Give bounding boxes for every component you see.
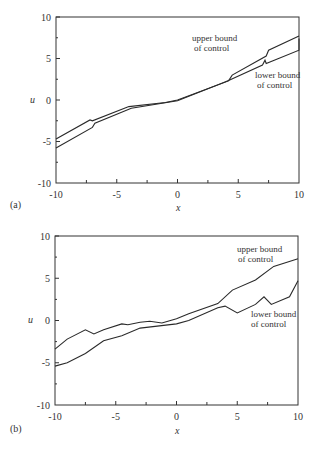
y-tick-label: 0 <box>45 315 50 326</box>
x-tick-label: -10 <box>49 189 62 200</box>
x-ticks-b <box>85 401 267 405</box>
x-tick-label: 5 <box>235 411 240 422</box>
y-tick-label: 10 <box>41 12 51 23</box>
annotation-upper-bound-a-line2: of control <box>194 43 230 53</box>
x-axis-label-b: x <box>174 425 180 436</box>
annotation-lower-bound-b-line2: of control <box>251 319 287 329</box>
y-tick-label: 10 <box>40 231 50 242</box>
annotation-upper-bound-b-line2: of control <box>238 254 274 264</box>
y-tick-label: 0 <box>46 95 51 106</box>
y-tick-label: -10 <box>38 178 51 189</box>
x-tick-label: 5 <box>236 189 241 200</box>
y-tick-label: -10 <box>37 400 50 411</box>
chart-panel-a: 10 5 0 -5 -10 -10 -5 0 5 10 u x (a) uppe… <box>10 12 304 214</box>
y-ticks-a <box>56 17 60 162</box>
panel-label-a: (a) <box>10 199 21 211</box>
x-tick-label: -10 <box>48 411 61 422</box>
y-tick-label: 5 <box>46 53 51 64</box>
y-tick-label: 5 <box>45 273 50 284</box>
x-tick-label: 0 <box>174 411 179 422</box>
y-axis-label-b: u <box>28 314 33 325</box>
figure: 10 5 0 -5 -10 -10 -5 0 5 10 u x (a) uppe… <box>0 0 318 449</box>
x-tick-label: 10 <box>294 189 304 200</box>
annotation-upper-bound-b: upper bound <box>237 244 283 254</box>
x-tick-label: 0 <box>175 189 180 200</box>
annotation-lower-bound-a-line2: of control <box>257 80 293 90</box>
annotation-lower-bound-a: lower bound <box>255 70 301 80</box>
x-axis-label-a: x <box>175 202 181 213</box>
panel-label-b: (b) <box>10 423 22 435</box>
upper-bound-line-b <box>55 259 298 349</box>
y-tick-label: -5 <box>42 357 50 368</box>
x-tick-label: -5 <box>113 189 121 200</box>
x-tick-label: 10 <box>293 411 303 422</box>
x-tick-label: -5 <box>112 411 120 422</box>
y-tick-label: -5 <box>43 136 51 147</box>
x-ticks-a <box>86 179 268 183</box>
y-ticks-b <box>55 236 59 384</box>
y-axis-label-a: u <box>30 94 35 105</box>
annotation-upper-bound-a: upper bound <box>192 33 238 43</box>
lower-bound-line-a <box>56 39 299 149</box>
chart-panel-b: 10 5 0 -5 -10 -10 -5 0 5 10 u x (b) uppe… <box>10 231 303 437</box>
annotation-lower-bound-b: lower bound <box>251 309 297 319</box>
